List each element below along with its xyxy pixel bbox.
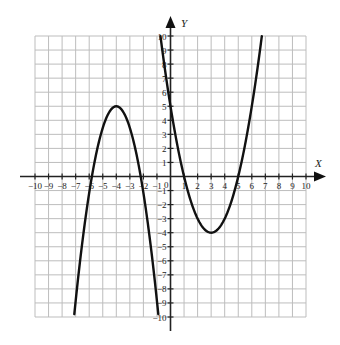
x-tick-label: 8: [277, 181, 282, 191]
x-tick-label: −4: [112, 181, 122, 191]
x-tick-label: 9: [290, 181, 295, 191]
y-tick-label: 2: [162, 144, 167, 154]
x-tick-label: −9: [44, 181, 54, 191]
axes: [20, 16, 326, 331]
y-tick-label: −5: [157, 242, 167, 252]
y-tick-label: −7: [157, 270, 167, 280]
y-tick-label: 5: [162, 102, 167, 112]
plot-svg: −10−9−8−7−6−5−4−3−2−112345678910 −10−9−8…: [0, 0, 340, 345]
y-tick-label: −3: [157, 214, 167, 224]
y-tick-label: −2: [157, 200, 167, 210]
x-tick-label: 4: [222, 181, 227, 191]
x-tick-label: −7: [71, 181, 81, 191]
x-axis-label: X: [314, 157, 323, 169]
x-tick-label: −5: [98, 181, 108, 191]
y-tick-label: 1: [162, 158, 167, 168]
coordinate-plane-chart: −10−9−8−7−6−5−4−3−2−112345678910 −10−9−8…: [0, 0, 340, 345]
y-tick-label: −4: [157, 228, 167, 238]
x-tick-label: 10: [302, 181, 312, 191]
x-tick-label: −8: [57, 181, 67, 191]
x-tick-labels: −10−9−8−7−6−5−4−3−2−112345678910: [28, 181, 311, 191]
x-tick-label: 7: [263, 181, 268, 191]
x-tick-label: −10: [28, 181, 43, 191]
y-tick-label: −8: [157, 284, 167, 294]
x-tick-label: −3: [125, 181, 135, 191]
y-tick-label: 4: [162, 116, 167, 126]
y-tick-label: 10: [158, 32, 168, 42]
x-axis-arrow-icon: [314, 172, 326, 182]
y-axis-arrow-icon: [166, 16, 176, 28]
y-tick-label: 6: [162, 88, 167, 98]
y-tick-label: 3: [162, 130, 167, 140]
y-tick-label: −10: [152, 313, 167, 323]
x-tick-label: 3: [209, 181, 214, 191]
x-tick-label: 2: [195, 181, 200, 191]
y-tick-label: −6: [157, 256, 167, 266]
x-tick-label: 6: [250, 181, 255, 191]
y-axis-label: Y: [181, 17, 189, 29]
origin-label: 0: [164, 180, 169, 190]
